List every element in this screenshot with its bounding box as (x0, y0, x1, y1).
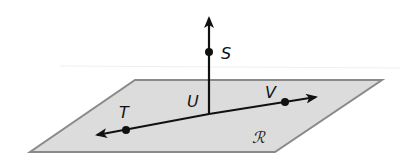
faint-horizon-line (60, 66, 400, 68)
label-v: V (265, 83, 277, 102)
label-u: U (187, 92, 199, 111)
plane-r (30, 80, 382, 152)
point-t (122, 126, 130, 134)
label-s: S (221, 44, 231, 63)
geometry-diagram: S U T V ℛ (0, 0, 402, 166)
point-v (281, 98, 289, 106)
label-t: T (119, 103, 130, 122)
point-s (205, 48, 213, 56)
label-plane-r: ℛ (252, 128, 266, 147)
